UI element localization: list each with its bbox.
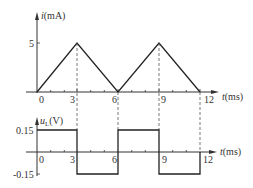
current-chart: 5 0 3 6 9 12 i(mA) t(ms) — [26, 10, 243, 105]
current-y-tick-label: 5 — [29, 38, 34, 49]
voltage-y-arrow-icon — [35, 117, 39, 125]
current-x-label-3: 3 — [70, 94, 75, 105]
waveform-diagram: 5 0 3 6 9 12 i(mA) t(ms) — [0, 0, 253, 188]
voltage-chart: 0.15 -0.15 0 3 6 9 12 uL(V) t(ms) — [13, 115, 241, 180]
current-x-axis-label: t(ms) — [222, 91, 243, 103]
voltage-x-label-0: 0 — [39, 154, 44, 165]
current-y-axis-label: i(mA) — [41, 10, 65, 22]
current-x-label-6: 6 — [112, 94, 117, 105]
current-waveform — [37, 43, 200, 92]
current-x-label-12: 12 — [204, 94, 214, 105]
voltage-x-label-3: 3 — [70, 154, 75, 165]
voltage-x-label-6: 6 — [112, 154, 117, 165]
voltage-x-axis-label: t(ms) — [220, 146, 241, 158]
current-x-label-0: 0 — [39, 94, 44, 105]
voltage-y-tick-label-pos: 0.15 — [16, 125, 34, 136]
voltage-y-axis-label: uL(V) — [40, 115, 63, 128]
voltage-x-label-9: 9 — [162, 154, 167, 165]
current-x-label-9: 9 — [161, 94, 166, 105]
dashed-guides — [77, 43, 200, 152]
voltage-y-tick-label-neg: -0.15 — [13, 169, 34, 180]
current-y-arrow-icon — [35, 12, 39, 20]
voltage-x-label-12: 12 — [203, 154, 213, 165]
